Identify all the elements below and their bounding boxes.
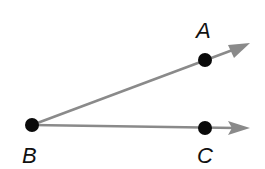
ray-ba xyxy=(32,43,250,125)
point-c xyxy=(198,121,212,135)
arrowhead-icon xyxy=(228,43,250,58)
ray-bc xyxy=(32,121,250,135)
point-b xyxy=(25,118,39,132)
angle-diagram xyxy=(0,0,265,169)
label-b: B xyxy=(22,145,37,167)
point-a xyxy=(198,53,212,67)
label-c: C xyxy=(197,145,213,167)
label-a: A xyxy=(196,20,211,42)
